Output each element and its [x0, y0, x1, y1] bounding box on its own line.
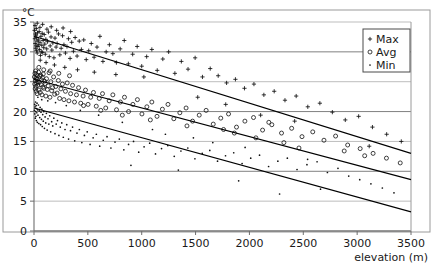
legend-label-min: Min	[376, 59, 396, 72]
x-axis-title: elevation (m)	[354, 251, 428, 264]
series-avg-points	[32, 65, 402, 165]
y-tick-label-25: 25	[13, 76, 27, 89]
y-axis-tick-labels: 05101520253035	[13, 16, 27, 238]
y-tick-label-30: 30	[13, 46, 27, 59]
x-tick-label-0: 0	[31, 237, 38, 250]
chart-legend: MaxAvgMin	[363, 29, 410, 72]
y-tick-label-5: 5	[20, 195, 27, 208]
x-tick-label-500: 500	[77, 237, 98, 250]
legend-label-max: Max	[376, 33, 399, 46]
x-tick-label-1500: 1500	[182, 237, 210, 250]
trend-line-min	[34, 108, 411, 212]
y-tick-marks	[30, 22, 34, 231]
x-tick-label-1000: 1000	[128, 237, 156, 250]
y-tick-label-10: 10	[13, 165, 27, 178]
y-tick-label-15: 15	[13, 135, 27, 148]
y-tick-label-0: 0	[20, 225, 27, 238]
x-tick-label-3500: 3500	[397, 237, 425, 250]
chart-canvas: 0500100015002000250030003500 05101520253…	[0, 0, 440, 270]
trend-lines	[34, 36, 411, 212]
scatter-chart: 0500100015002000250030003500 05101520253…	[0, 0, 440, 270]
x-tick-label-3000: 3000	[343, 237, 371, 250]
x-tick-label-2000: 2000	[235, 237, 263, 250]
x-axis-tick-labels: 0500100015002000250030003500	[31, 237, 426, 250]
legend-label-avg: Avg	[376, 46, 396, 59]
y-axis-unit-label: °C	[22, 6, 35, 18]
series-max-points	[32, 21, 403, 148]
x-tick-label-2500: 2500	[289, 237, 317, 250]
y-tick-label-20: 20	[13, 106, 27, 119]
